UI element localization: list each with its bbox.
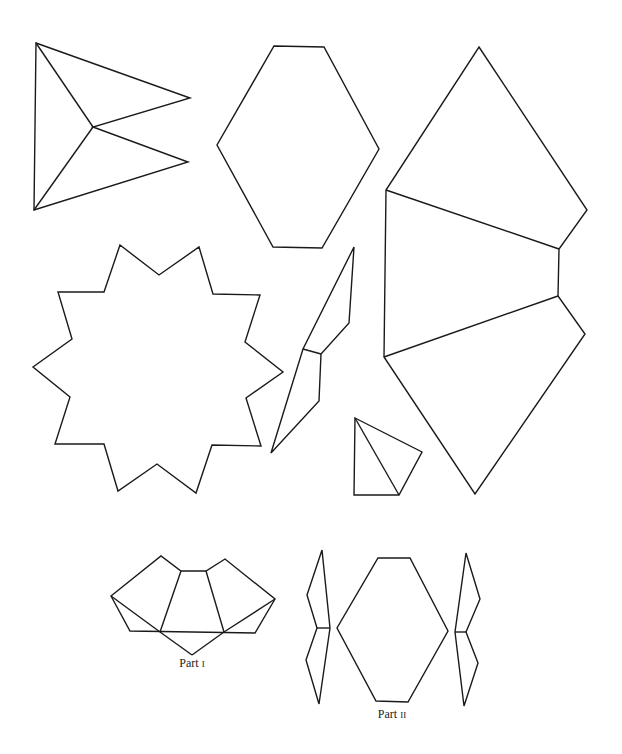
shapes-layer (33, 43, 587, 495)
large-pentagon-net-fold-line (386, 190, 559, 249)
ten-point-star (33, 245, 283, 493)
part1-net-fold-line (160, 632, 192, 655)
triangular-net (34, 43, 190, 210)
part1-net-fold-line (111, 596, 160, 632)
part2-right-piece-outline (455, 553, 480, 706)
narrow-kite-pair-fold-line (303, 349, 321, 354)
part2-hexagon-outline (337, 558, 448, 702)
part1-net-fold-line (160, 571, 181, 632)
hexagon-outline (217, 46, 379, 248)
part-1-group: Part I (111, 556, 275, 670)
triangular-net-fold-line (34, 127, 93, 210)
narrow-kite-pair (271, 247, 354, 453)
hexagon (217, 46, 379, 248)
part1-net (111, 556, 275, 655)
part1-net-fold-line (192, 632, 224, 655)
part-2-group: Part II (306, 550, 480, 721)
large-pentagon-net-outline (384, 47, 587, 494)
diagram-canvas: Part IPart II (0, 0, 622, 754)
part1-net-fold-line (206, 571, 224, 632)
part2-hexagon (337, 558, 448, 702)
small-kite-outline (354, 418, 422, 495)
triangular-net-fold-line (36, 43, 93, 127)
part2-left-piece (306, 550, 330, 704)
part-1-label: Part I (179, 656, 204, 670)
triangular-net-outline (34, 43, 190, 210)
part2-right-piece (455, 553, 480, 706)
part1-net-outline (111, 556, 275, 633)
large-pentagon-net-fold-line (384, 296, 558, 357)
part-2-label: Part II (378, 707, 406, 721)
parts-layer: Part IPart II (111, 550, 480, 721)
narrow-kite-pair-outline (271, 247, 354, 453)
ten-point-star-outline (33, 245, 283, 493)
large-pentagon-net (384, 47, 587, 494)
part1-net-fold-line (224, 599, 275, 632)
part2-left-piece-outline (306, 550, 330, 704)
small-kite (354, 418, 422, 495)
